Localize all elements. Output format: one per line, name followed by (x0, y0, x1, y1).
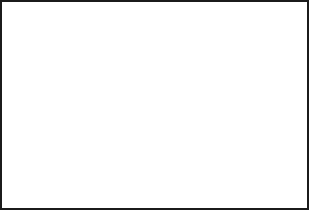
callout-paragraph-bulging-disc: A bulging disc or an arthritic facet joi… (163, 69, 303, 182)
vertebral-body-l1 (24, 18, 76, 54)
neural-foramen-middle (81, 79, 99, 91)
callout-text-block: Nerve roots exit the spine at each joint… (163, 21, 303, 182)
sacrum (45, 171, 109, 200)
lumbar-spine-illustration (14, 10, 144, 200)
figure-content-area: Nerve roots exit the spine at each joint… (6, 6, 303, 204)
callout-term-bulging-disc: A bulging disc (163, 70, 241, 84)
vertebral-body-l3 (31, 99, 85, 138)
spine-svg (14, 10, 144, 200)
callout-term-nerve-roots: Nerve roots (163, 22, 229, 36)
vertebral-body-l2 (27, 58, 80, 95)
iliac-wing (106, 167, 137, 200)
callout-body-bulging-disc: or an arthritic facet joint are both can… (163, 70, 301, 181)
bulging-disc-region (85, 126, 114, 158)
spine-callout-figure: Nerve roots exit the spine at each joint… (0, 0, 309, 210)
callout-paragraph-nerve-roots: Nerve roots exit the spine at each joint… (163, 21, 303, 69)
posterior-element-l3 (80, 95, 128, 121)
